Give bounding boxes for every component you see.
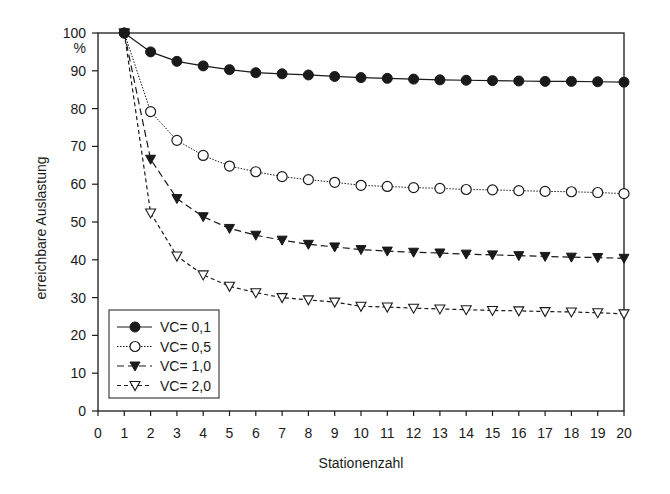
- y-tick-label: 100: [63, 25, 87, 41]
- open-circle-marker: [619, 189, 629, 199]
- filled-circle-marker: [146, 47, 156, 57]
- filled-triangle-marker: [225, 224, 235, 233]
- x-tick-label: 1: [120, 425, 128, 441]
- open-triangle-marker: [146, 209, 156, 218]
- open-circle-marker: [593, 188, 603, 198]
- filled-triangle-marker: [172, 195, 182, 204]
- open-triangle-marker: [198, 271, 208, 280]
- filled-triangle-marker: [540, 252, 550, 261]
- x-tick-label: 17: [537, 425, 553, 441]
- legend-label: VC= 0,5: [160, 339, 211, 355]
- x-tick-label: 6: [252, 425, 260, 441]
- y-tick-label: 90: [70, 63, 86, 79]
- x-tick-label: 15: [485, 425, 501, 441]
- x-tick-label: 11: [380, 425, 395, 441]
- open-circle-marker: [330, 177, 340, 187]
- filled-circle-marker: [540, 76, 550, 86]
- y-tick-label: 0: [78, 403, 86, 419]
- legend-label: VC= 1,0: [160, 358, 211, 374]
- x-tick-label: 3: [173, 425, 181, 441]
- filled-triangle-marker: [198, 213, 208, 222]
- filled-circle-marker: [356, 73, 366, 83]
- y-unit-label: %: [74, 40, 86, 56]
- series-vc05: [119, 28, 629, 199]
- filled-triangle-marker: [277, 236, 287, 245]
- series-vc01: [119, 28, 629, 87]
- filled-circle-marker: [119, 28, 129, 38]
- filled-circle-marker: [514, 76, 524, 86]
- filled-triangle-marker: [488, 251, 498, 260]
- filled-circle-marker: [435, 75, 445, 85]
- x-tick-label: 12: [406, 425, 422, 441]
- series-group: [119, 28, 629, 319]
- y-axis-title: erreichbare Auslastung: [33, 156, 49, 299]
- filled-circle-marker: [409, 74, 419, 84]
- y-tick-label: 80: [70, 101, 86, 117]
- filled-circle-marker: [225, 65, 235, 75]
- filled-circle-marker: [488, 76, 498, 86]
- x-tick-label: 4: [199, 425, 207, 441]
- filled-circle-marker: [566, 76, 576, 86]
- open-circle-marker: [566, 187, 576, 197]
- y-tick-label: 30: [70, 290, 86, 306]
- filled-circle-marker: [130, 322, 140, 332]
- filled-triangle-marker: [356, 246, 366, 255]
- filled-circle-marker: [593, 77, 603, 87]
- open-circle-marker: [172, 135, 182, 145]
- x-tick-label: 14: [458, 425, 474, 441]
- line-chart: 0102030405060708090100 01234567891011121…: [0, 0, 670, 494]
- filled-circle-marker: [303, 70, 313, 80]
- y-tick-label: 40: [70, 252, 86, 268]
- open-triangle-marker: [435, 305, 445, 314]
- open-triangle-marker: [540, 308, 550, 317]
- open-triangle-marker: [409, 304, 419, 313]
- filled-circle-marker: [277, 69, 287, 79]
- open-circle-marker: [130, 342, 140, 352]
- open-triangle-marker: [619, 310, 629, 319]
- filled-triangle-marker: [409, 248, 419, 257]
- open-triangle-marker: [330, 298, 340, 307]
- open-triangle-marker: [514, 307, 524, 316]
- open-circle-marker: [198, 150, 208, 160]
- y-tick-label: 20: [70, 327, 86, 343]
- y-tick-label: 10: [70, 365, 86, 381]
- open-circle-marker: [488, 185, 498, 195]
- x-tick-label: 13: [432, 425, 448, 441]
- open-circle-marker: [514, 186, 524, 196]
- open-triangle-marker: [172, 252, 182, 261]
- y-tick-label: 60: [70, 176, 86, 192]
- legend-label: VC= 0,1: [160, 319, 211, 335]
- open-circle-marker: [382, 181, 392, 191]
- open-circle-marker: [225, 161, 235, 171]
- x-tick-label: 16: [511, 425, 527, 441]
- x-axis-title: Stationenzahl: [319, 455, 404, 471]
- filled-circle-marker: [172, 56, 182, 66]
- x-tick-label: 19: [590, 425, 606, 441]
- filled-circle-marker: [330, 71, 340, 81]
- x-tick-label: 9: [331, 425, 339, 441]
- x-tick-label: 18: [564, 425, 580, 441]
- x-tick-label: 7: [278, 425, 286, 441]
- series-line: [124, 33, 624, 82]
- x-tick-label: 5: [226, 425, 234, 441]
- filled-triangle-marker: [619, 254, 629, 263]
- open-circle-marker: [146, 107, 156, 117]
- filled-triangle-marker: [146, 155, 156, 164]
- filled-circle-marker: [382, 73, 392, 83]
- series-vc20: [119, 29, 629, 319]
- filled-circle-marker: [251, 68, 261, 78]
- y-tick-label: 70: [70, 138, 86, 154]
- filled-circle-marker: [461, 75, 471, 85]
- open-triangle-marker: [303, 296, 313, 305]
- y-axis: 0102030405060708090100: [63, 25, 98, 419]
- filled-circle-marker: [619, 77, 629, 87]
- x-tick-label: 20: [616, 425, 632, 441]
- open-circle-marker: [303, 175, 313, 185]
- x-axis: 01234567891011121314151617181920: [94, 411, 632, 441]
- x-tick-label: 8: [305, 425, 313, 441]
- x-tick-label: 2: [147, 425, 155, 441]
- filled-circle-marker: [198, 61, 208, 71]
- legend-label: VC= 2,0: [160, 378, 211, 394]
- open-circle-marker: [461, 184, 471, 194]
- legend: VC= 0,1VC= 0,5VC= 1,0VC= 2,0: [109, 310, 219, 398]
